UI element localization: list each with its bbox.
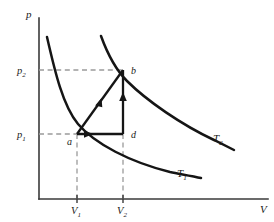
x-tick-label-v1: V1 — [71, 205, 81, 219]
state-point-label-d: d — [131, 129, 137, 140]
y-tick-label-p1: p1 — [16, 129, 26, 143]
isotherms-group — [47, 36, 234, 178]
isotherm-label-subscript-t1: 1 — [183, 174, 187, 182]
isotherm-label-t1: T1 — [177, 167, 187, 182]
pv-diagram-canvas: p V p2 p1 V1 V2 a b d — [0, 0, 274, 222]
y-axis-label: p — [25, 8, 32, 20]
svg-text:V2: V2 — [117, 205, 127, 219]
svg-text:T2: T2 — [213, 132, 223, 147]
y-tick-subscript-p2: 2 — [22, 71, 26, 79]
x-tick-label-v2: V2 — [117, 205, 127, 219]
y-tick-subscript-p1: 1 — [22, 135, 26, 143]
state-point-label-b: b — [131, 65, 136, 76]
isotherm-label-t2: T2 — [213, 132, 223, 147]
svg-text:p1: p1 — [16, 129, 26, 143]
isotherm-label-subscript-t2: 2 — [219, 139, 223, 147]
arrow-head-d-to-b — [119, 92, 127, 101]
state-point-label-a: a — [67, 136, 72, 147]
pv-diagram-figure: p V p2 p1 V1 V2 a b d — [0, 0, 274, 222]
x-tick-subscript-v1: 1 — [77, 211, 81, 219]
y-tick-label-p2: p2 — [16, 65, 26, 79]
svg-text:p2: p2 — [16, 65, 26, 79]
svg-text:V1: V1 — [71, 205, 81, 219]
process-paths-group — [77, 70, 127, 138]
x-axis-label: V — [260, 203, 268, 215]
svg-text:T1: T1 — [177, 167, 187, 182]
axes-group — [39, 18, 268, 199]
x-tick-subscript-v2: 2 — [123, 211, 127, 219]
